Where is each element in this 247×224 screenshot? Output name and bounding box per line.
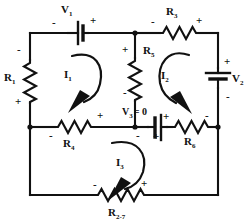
label-r1: R1 [4,72,15,86]
polarity-v1-minus: - [52,17,56,28]
polarity-r5-minus: - [123,87,127,98]
r6-resistor-zigzag [172,121,209,133]
polarity-r27-plus: + [141,178,147,189]
polarity-v3-plus: + [153,131,159,142]
polarity-r1-minus: - [17,44,21,55]
label-v2: V2 [232,73,243,87]
node-dot-middle-right [215,124,220,129]
polarity-v3-minus: - [136,130,140,141]
polarity-r1-plus: + [15,96,21,107]
r1-resistor-zigzag [24,60,36,103]
circuit-diagram: V1 R3 R1 R5 V2 R4 R6 R2-7 V3= 0 I1 I2 I3… [0,0,247,224]
label-v3: V3= 0 [122,107,147,120]
polarity-r3-minus: - [151,16,155,27]
label-r27: R2-7 [108,207,125,221]
r5-resistor-zigzag [129,58,141,101]
polarity-r3-plus: + [196,15,202,26]
label-r5: R5 [143,45,154,59]
label-i3: I3 [116,157,124,171]
polarity-r27-minus: - [93,179,97,190]
label-r3: R3 [166,6,177,20]
r27-resistor-zigzag [95,189,148,201]
polarity-r6-minus: - [205,110,209,121]
polarity-v2-minus: - [226,91,230,102]
label-v1: V1 [61,4,72,18]
polarity-v1-plus: + [90,15,96,26]
polarity-r4-minus: - [49,130,53,141]
label-i1: I1 [64,69,72,83]
label-r4: R4 [63,138,74,152]
node-dot-top-center [132,30,137,35]
polarity-r4-plus: + [97,110,103,121]
polarity-r6-plus: + [163,111,169,122]
r3-resistor-zigzag [160,27,197,39]
r4-resistor-zigzag [55,121,92,133]
node-dot-middle-left [27,124,32,129]
polarity-v2-plus: + [224,56,230,67]
polarity-r5-plus: + [122,44,128,55]
label-r6: R6 [184,136,195,150]
label-i2: I2 [161,70,169,84]
